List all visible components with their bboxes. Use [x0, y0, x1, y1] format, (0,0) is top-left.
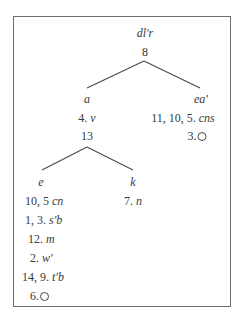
node-e-entry: 2. w'	[30, 251, 53, 265]
edge-root-ea	[144, 61, 200, 88]
root-label: dl'r	[137, 26, 154, 40]
root-number: 8	[142, 45, 148, 59]
node-a-annotation: 4. v	[78, 111, 95, 125]
node-a-annotation-num: 4.	[78, 111, 87, 125]
node-ea-empty: 3.	[188, 129, 207, 143]
edge-a-e	[42, 147, 87, 170]
entry-num: 10, 5	[25, 194, 49, 208]
node-e-empty: 6.	[30, 289, 49, 303]
entry-sym: w'	[42, 251, 53, 265]
node-k-annotation-num: 7.	[124, 194, 133, 208]
node-e-entry: 12. m	[28, 232, 55, 246]
node-k-label: k	[130, 175, 135, 189]
node-e-entry: 1, 3. s'b	[25, 213, 62, 227]
node-ea-annotation-sym: cns	[199, 111, 215, 125]
node-e-empty-num: 6.	[30, 289, 39, 303]
node-ea-label: ea'	[194, 92, 208, 106]
entry-sym: m	[46, 232, 55, 246]
entry-num: 14, 9.	[22, 270, 49, 284]
edge-a-k	[87, 147, 133, 170]
circle-empty-icon	[40, 292, 49, 301]
node-e-label: e	[38, 175, 43, 189]
node-a-number: 13	[81, 129, 93, 143]
node-ea-empty-num: 3.	[188, 129, 197, 143]
node-e-entry: 10, 5 cn	[25, 194, 63, 208]
entry-sym: t'b	[52, 270, 64, 284]
node-ea-annotation: 11, 10, 5. cns	[151, 111, 215, 125]
entry-num: 1, 3.	[25, 213, 46, 227]
node-k-annotation-sym: n	[136, 194, 142, 208]
node-a-label: a	[84, 92, 90, 106]
entry-num: 12.	[28, 232, 43, 246]
node-k-annotation: 7. n	[124, 194, 142, 208]
node-ea-annotation-num: 11, 10, 5.	[151, 111, 196, 125]
edge-root-a	[87, 61, 144, 88]
circle-empty-icon	[198, 132, 207, 141]
entry-sym: cn	[52, 194, 63, 208]
entry-sym: s'b	[49, 213, 62, 227]
node-a-annotation-sym: v	[90, 111, 95, 125]
entry-num: 2.	[30, 251, 39, 265]
node-e-entry: 14, 9. t'b	[22, 270, 64, 284]
